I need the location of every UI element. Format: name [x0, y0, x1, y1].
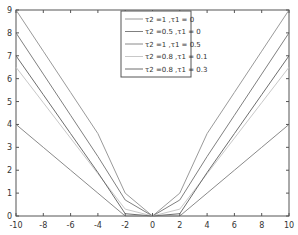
x-tick-label: 4	[205, 221, 210, 230]
x-tick-label: -6	[67, 221, 75, 230]
y-tick-label: 9	[7, 6, 12, 15]
legend-label: τ2 =0.8 ,τ1 = 0.3	[145, 66, 207, 74]
y-tick-label: 2	[7, 166, 12, 175]
x-tick-label: -8	[39, 221, 47, 230]
x-tick-label: 2	[177, 221, 182, 230]
y-tick-label: 5	[7, 98, 12, 107]
x-tick-label: -10	[9, 221, 22, 230]
y-tick-label: 3	[7, 143, 12, 152]
y-tick-label: 8	[7, 29, 12, 38]
x-tick-label: -4	[94, 221, 102, 230]
y-tick-label: 7	[7, 52, 12, 61]
legend-label: τ2 =1 ,τ1 = 0.5	[145, 41, 201, 49]
legend-label: τ2 =0.5 ,τ1 = 0	[145, 28, 201, 36]
x-tick-label: 8	[259, 221, 264, 230]
x-tick-label: -2	[121, 221, 129, 230]
x-tick-label: 6	[232, 221, 237, 230]
legend-label: τ2 =0.8 ,τ1 = 0.1	[145, 53, 207, 61]
line-chart: -10-8-6-4-20246810 0123456789 τ2 =1 ,τ1 …	[0, 0, 298, 235]
x-tick-label: 0	[150, 221, 155, 230]
y-tick-label: 0	[7, 212, 12, 221]
y-tick-label: 1	[7, 189, 12, 198]
x-tick-label: 10	[284, 221, 294, 230]
y-tick-label: 6	[7, 75, 12, 84]
legend-label: τ2 =1 ,τ1 = 0	[145, 16, 194, 24]
y-tick-label: 4	[7, 120, 12, 129]
